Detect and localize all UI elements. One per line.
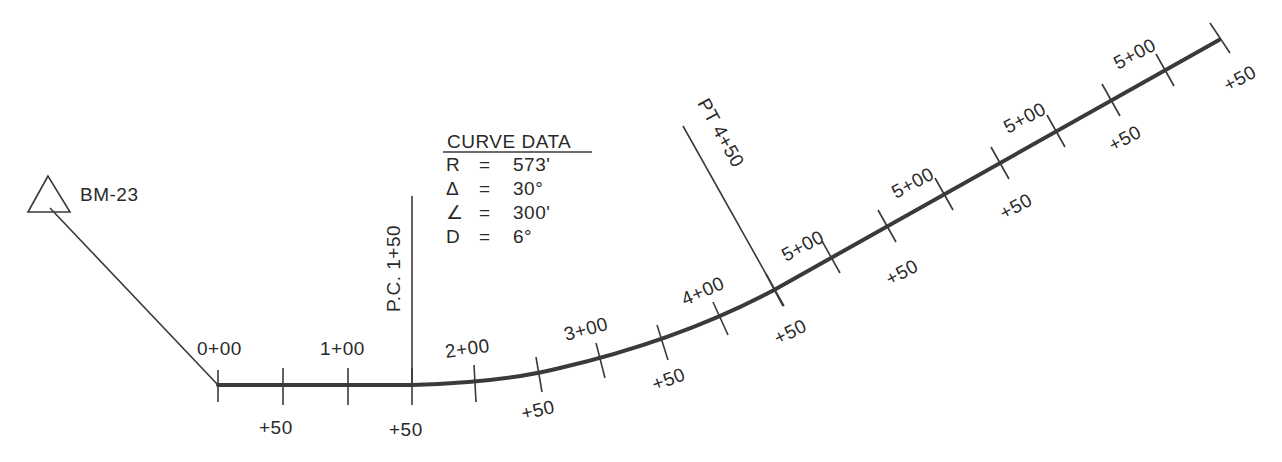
tick-2+00 [474,365,476,402]
tick-5+00d [1156,54,1174,86]
half-station-label-0: +50 [259,417,293,438]
curve-degree-eq: = [479,226,491,247]
tick-5+50c [1102,84,1120,116]
curve-length-value: 300' [513,202,550,223]
curve-radius-symbol: R [446,154,460,175]
half-station-label-2: +50 [519,396,557,424]
station-label-1: 1+00 [320,338,365,359]
curve-degree-value: 6° [513,226,532,247]
station-label-6: 5+00 [888,163,937,203]
tick-5+00b [935,178,953,210]
curve-radius-eq: = [479,154,491,175]
station-label-4: 4+00 [678,272,727,309]
alignment-line [218,40,1219,385]
curve-length-symbol: ∠ [446,202,464,223]
curve-delta-eq: = [479,178,491,199]
half-station-label-6: +50 [996,189,1036,223]
alignment-drawing: BM-23 P.C. 1+50 PT 4+50 CURVE DA [0,0,1282,462]
pc-marker: P.C. 1+50 [383,196,412,385]
half-station-label-4: +50 [771,315,811,349]
tick-5+50a [878,210,896,242]
station-label-7: 5+00 [1000,98,1049,138]
pc-label: P.C. 1+50 [383,225,404,312]
curve-delta-symbol: Δ [446,178,459,199]
curve-data-table: CURVE DATA R = 573' Δ = 30° ∠ = 300' D =… [443,131,592,247]
half-station-label-3: +50 [649,363,688,394]
curve-degree-symbol: D [446,226,460,247]
benchmark: BM-23 [28,176,138,212]
tick-5+00c [1047,115,1065,147]
station-label-0: 0+00 [197,338,242,359]
benchmark-label: BM-23 [80,184,138,205]
tie-line [50,208,218,385]
curve-data-title: CURVE DATA [447,131,571,152]
half-station-label-5: +50 [882,255,922,289]
tick-end [1210,23,1230,53]
station-ticks [218,23,1230,405]
half-station-label-1: +50 [389,419,423,440]
pt-marker: PT 4+50 [683,95,784,306]
curve-delta-value: 30° [513,178,543,199]
triangle-benchmark-icon [28,176,70,212]
station-label-8: 5+00 [1110,34,1159,74]
half-station-label-8: +50 [1220,61,1260,95]
station-label-2: 2+00 [444,335,491,362]
half-station-label-7: +50 [1105,121,1145,155]
tick-5+50b [991,147,1009,179]
curve-length-eq: = [479,202,491,223]
curve-radius-value: 573' [513,154,550,175]
tick-3+50 [657,325,668,360]
station-label-5: 5+00 [778,226,827,266]
station-label-3: 3+00 [562,313,611,345]
